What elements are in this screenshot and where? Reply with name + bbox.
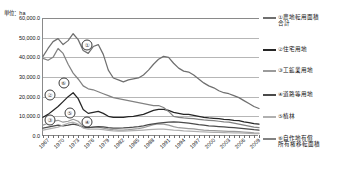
x-axis-label: 1994 (173, 137, 186, 150)
series-line-2 (43, 93, 259, 124)
legend-swatch-2 (263, 49, 276, 51)
marker-5: ⑤ (64, 107, 75, 118)
legend-item-3[interactable]: ③工鉱業用地 (263, 67, 345, 73)
legend-label-6: ⑥自作地有償 所有権移転面積 (278, 135, 320, 148)
x-axis-label: 2009 (248, 137, 261, 150)
marker-1: ① (82, 40, 93, 51)
chart-root: 単位：ha 60,000.050,000.040,000.030,000.020… (0, 0, 345, 180)
x-tick (259, 135, 260, 138)
x-axis-label: 1988 (143, 137, 156, 150)
y-tick-label: 60,000.0 (19, 15, 40, 21)
series-line-3 (43, 119, 259, 133)
series-line-1 (43, 34, 259, 109)
x-axis-label: 1982 (113, 137, 126, 150)
x-axis-label: 1973 (68, 137, 81, 150)
x-axis-label: 1976 (83, 137, 96, 150)
marker-4: ④ (82, 116, 93, 127)
legend-swatch-4 (263, 94, 276, 96)
x-axis-label: 1985 (128, 137, 141, 150)
legend-label-4: ④道路等用地 (278, 91, 313, 97)
legend-swatch-3 (263, 70, 276, 72)
x-axis-labels: 1967197019731976197919821985198819911994… (42, 137, 258, 179)
legend-swatch-5 (263, 116, 276, 118)
x-axis-label: 1991 (158, 137, 171, 150)
legend-label-3: ③工鉱業用地 (278, 67, 313, 73)
legend-label-2: ②住宅用地 (278, 46, 307, 52)
marker-6: ⑥ (58, 77, 69, 88)
x-axis-label: 1997 (188, 137, 201, 150)
plot-area: ①②③④⑤⑥ (42, 18, 258, 136)
y-tick-label: 10,000.0 (19, 113, 40, 119)
series-line-6 (43, 48, 259, 127)
legend-swatch-1 (263, 17, 276, 19)
legend-item-4[interactable]: ④道路等用地 (263, 91, 345, 97)
y-tick-label: 40,000.0 (19, 54, 40, 60)
legend-item-5[interactable]: ⑤植林 (263, 113, 345, 119)
series-lines (43, 18, 259, 136)
x-axis-label: 1970 (53, 137, 66, 150)
x-axis-label: 1979 (98, 137, 111, 150)
x-axis-label: 2000 (203, 137, 216, 150)
y-axis: 60,000.050,000.040,000.030,000.020,000.0… (0, 0, 42, 180)
y-tick-label: 0.0 (33, 133, 41, 139)
y-tick-label: 30,000.0 (19, 74, 40, 80)
legend-swatch-6 (263, 138, 276, 140)
legend-item-1[interactable]: ①農地転用面積 合計 (263, 14, 345, 27)
marker-2: ② (45, 89, 56, 100)
legend-item-6[interactable]: ⑥自作地有償 所有権移転面積 (263, 135, 345, 148)
x-axis-label: 2006 (233, 137, 246, 150)
legend-label-5: ⑤植林 (278, 113, 295, 119)
legend-label-1: ①農地転用面積 合計 (278, 14, 319, 27)
legend-item-2[interactable]: ②住宅用地 (263, 46, 345, 52)
y-tick-label: 20,000.0 (19, 94, 40, 100)
marker-3: ③ (45, 114, 56, 125)
y-tick-label: 50,000.0 (19, 35, 40, 41)
x-axis-label: 2003 (218, 137, 231, 150)
